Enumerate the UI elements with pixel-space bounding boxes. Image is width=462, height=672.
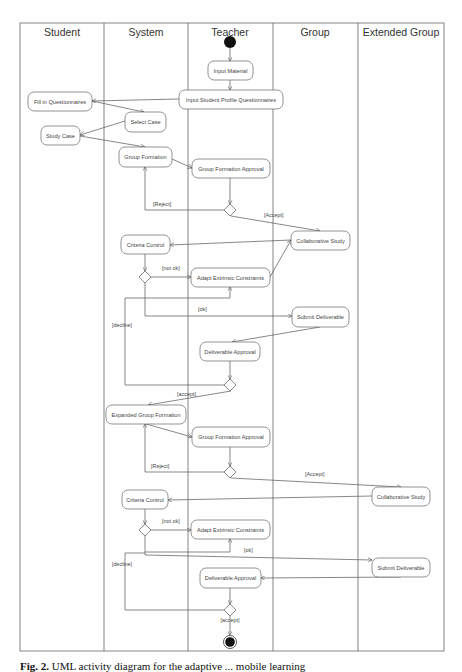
activity-label: Group Formation xyxy=(124,154,166,160)
edge-accept xyxy=(231,478,401,487)
edge-ok xyxy=(145,552,372,560)
activity-label: Study Case xyxy=(46,133,75,139)
figure-caption: Fig. 2. UML activity diagram for the ada… xyxy=(20,660,305,672)
activity-label: Group Formation Approval xyxy=(198,166,264,172)
guard-not-ok: [not ok] xyxy=(162,518,180,524)
guard-decline: [decline] xyxy=(112,561,133,567)
decision-node xyxy=(224,466,236,478)
edge xyxy=(172,159,192,168)
activity-label: Adapt Extrinsic Constraints xyxy=(197,275,264,281)
edges xyxy=(80,48,401,635)
edge xyxy=(92,99,179,101)
edge xyxy=(80,121,125,135)
lane-title-group: Group xyxy=(300,26,329,38)
figure-caption-text: UML activity diagram for the adaptive ..… xyxy=(52,660,305,672)
edge xyxy=(146,424,192,437)
activity-label: Deliverable Approval xyxy=(205,575,256,581)
guard-accept: [Accept] xyxy=(305,471,325,477)
decision-node xyxy=(224,604,236,616)
activity-label: Criteria Control xyxy=(126,497,164,503)
activity-label: Fill in Questionnaires xyxy=(34,99,86,105)
guard-decline: [decline] xyxy=(112,322,133,328)
activity-label: Expanded Group Formation xyxy=(111,412,180,418)
guard-not-ok: [not ok] xyxy=(162,265,180,271)
edge xyxy=(232,327,320,342)
activity-label: Submit Deliverable xyxy=(297,314,344,320)
guard-ok: [ok] xyxy=(198,306,207,312)
activity-label: Collaborative Study xyxy=(296,238,345,244)
activity-label: Input Student Profile Questionnaires xyxy=(186,97,276,103)
activity-label: Adapt Extrinsic Constraints xyxy=(197,527,264,533)
figure-number: Fig. 2. xyxy=(20,660,49,672)
activity-label: Input Material xyxy=(214,68,248,74)
decision-node xyxy=(224,204,236,216)
activity-label: Submit Deliverable xyxy=(378,565,425,571)
guard-accept: [accept] xyxy=(221,617,240,623)
decision-node xyxy=(139,524,151,536)
edge xyxy=(168,496,372,500)
lane-title-student: Student xyxy=(44,26,80,38)
lane-title-system: System xyxy=(128,26,163,38)
guard-reject: [Reject] xyxy=(151,463,170,469)
guard-ok: [ok] xyxy=(244,547,253,553)
guard-reject: [Reject] xyxy=(153,201,172,207)
final-node xyxy=(225,637,235,647)
edge xyxy=(92,101,144,112)
initial-node xyxy=(224,36,236,48)
activity-label: Select Case xyxy=(130,119,160,125)
decision-node xyxy=(139,271,151,283)
activity-label: Collaborative Study xyxy=(377,494,426,500)
edge xyxy=(80,136,145,147)
decision-node xyxy=(224,379,236,391)
edge-ok xyxy=(145,283,292,316)
activity-label: Criteria Control xyxy=(127,242,165,248)
edge-decline xyxy=(125,287,230,385)
edge-accept xyxy=(231,216,320,231)
guard-accept: [Accept] xyxy=(264,212,284,218)
lane-title-extended-group: Extended Group xyxy=(363,26,440,38)
activity-label: Deliverable Approval xyxy=(204,349,255,355)
guard-accept: [accept] xyxy=(177,391,196,397)
activity-label: Group Formation Approval xyxy=(198,434,264,440)
